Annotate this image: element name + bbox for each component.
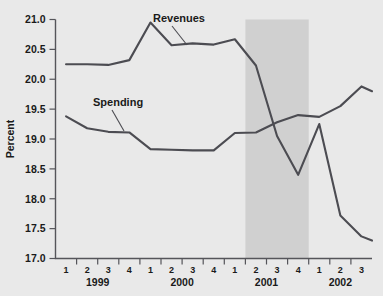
chart-container: 21.020.520.019.519.018.518.017.517.0 123… [0,0,383,296]
recession-shading [245,20,308,259]
x-axis-quarter-label: 3 [106,265,111,275]
y-axis-tick-label: 19.0 [25,133,46,145]
x-axis-quarter-label: 4 [296,265,301,275]
x-axis-quarter-label: 2 [85,265,90,275]
x-axis-quarter-label: 1 [317,265,322,275]
x-axis-quarter-label: 3 [359,265,364,275]
x-axis-quarter-label: 1 [148,265,153,275]
y-axis-tick-label: 18.0 [25,193,46,205]
y-axis-tick-label: 20.0 [25,73,46,85]
x-axis-quarter-label: 4 [211,265,216,275]
y-axis-tick-label: 17.5 [25,222,46,234]
y-axis-tick-label: 21.0 [25,13,46,25]
y-axis-tick-label: 17.0 [25,252,46,264]
y-axis-label: Percent [4,119,16,158]
x-axis-quarter-label: 1 [232,265,237,275]
chart-svg: 21.020.520.019.519.018.518.017.517.0 123… [0,0,383,296]
x-axis-quarter-label: 3 [275,265,280,275]
x-axis-quarter-label: 1 [64,265,69,275]
series-label-spending: Spending [93,96,143,108]
x-axis-year-label: 2001 [255,276,279,288]
x-axis-quarter-label: 2 [253,265,258,275]
x-axis-quarter-label: 3 [190,265,195,275]
y-axis-tick-label: 19.5 [25,103,46,115]
x-axis-quarter-label: 2 [338,265,343,275]
x-axis-quarter-label: 2 [169,265,174,275]
x-axis-quarter-label: 4 [127,265,132,275]
x-axis-year-label: 2000 [170,276,194,288]
x-axis-year-label: 1999 [86,276,110,288]
y-axis-tick-label: 20.5 [25,43,46,55]
series-label-revenues: Revenues [153,12,205,24]
x-axis-year-label: 2002 [329,276,353,288]
recession-band [245,20,308,259]
y-axis-tick-label: 18.5 [25,163,46,175]
